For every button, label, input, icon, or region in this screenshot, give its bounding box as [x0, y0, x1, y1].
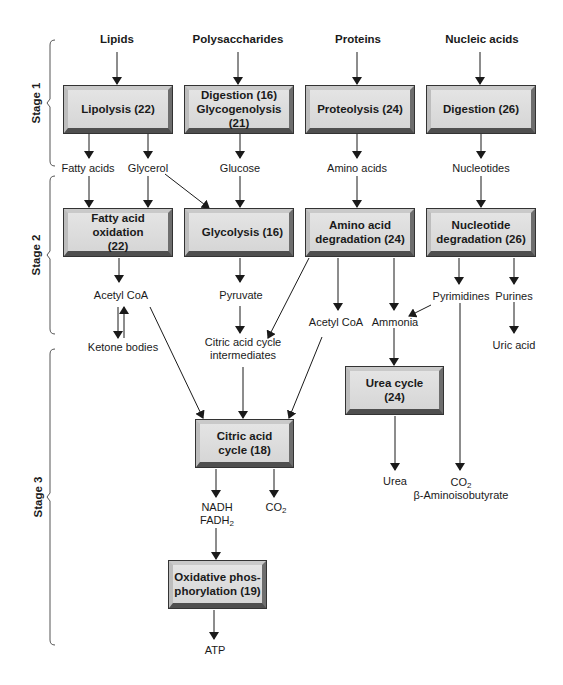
process-nucleotide-degradation: Nucleotide degradation (26) — [427, 209, 535, 256]
process-urea-cycle: Urea cycle (24) — [346, 367, 443, 414]
co2-cac-text: CO — [266, 501, 283, 513]
process-amino-acid-degradation: Amino acid degradation (24) — [306, 209, 414, 256]
product-fadh2: FADH2 — [200, 514, 234, 527]
process-proteolysis-label: Proteolysis (24) — [317, 102, 403, 116]
intermediate-acetyl-coa-right: Acetyl CoA — [309, 316, 363, 329]
process-amino-acid-degradation-line1: Amino acid — [329, 218, 391, 232]
product-nadh: NADH — [200, 501, 234, 514]
process-urea-cycle-line1: Urea cycle — [366, 376, 424, 390]
product-nadh-fadh2: NADH FADH2 — [200, 501, 234, 527]
source-polysaccharides: Polysaccharides — [193, 33, 284, 45]
stage-2-label: Stage 2 — [30, 235, 42, 276]
fadh-text: FADH — [200, 514, 229, 526]
intermediate-glucose: Glucose — [220, 162, 260, 175]
intermediate-amino-acids: Amino acids — [327, 162, 387, 175]
process-glycogenolysis-label: Glycogenolysis (21) — [189, 102, 289, 130]
intermediate-pyrimidines: Pyrimidines — [433, 290, 490, 303]
process-fatty-acid-oxidation-line1: Fatty acid oxidation — [68, 211, 168, 239]
process-oxidative-phos-line1: Oxidative phos- — [174, 570, 260, 584]
process-amino-acid-degradation-line2: degradation (24) — [315, 232, 404, 246]
process-nucleotide-degradation-line1: Nucleotide — [452, 218, 511, 232]
process-citric-acid-cycle: Citric acid cycle (18) — [196, 420, 293, 467]
product-beta-aminoisobutyrate: β-Aminoisobutyrate — [414, 489, 509, 502]
source-nucleic-acids: Nucleic acids — [445, 33, 519, 45]
process-oxidative-phos-line2: phorylation (19) — [174, 584, 260, 598]
source-lipids: Lipids — [100, 33, 134, 45]
source-proteins: Proteins — [335, 33, 381, 45]
process-lipolysis: Lipolysis (22) — [64, 86, 172, 133]
process-glycolysis: Glycolysis (16) — [185, 209, 293, 256]
stage-1-label: Stage 1 — [30, 83, 42, 124]
intermediate-uric-acid: Uric acid — [493, 339, 536, 352]
product-atp: ATP — [205, 644, 226, 657]
process-lipolysis-label: Lipolysis (22) — [81, 102, 155, 116]
process-citric-acid-cycle-line1: Citric acid — [217, 429, 273, 443]
intermediate-nucleotides: Nucleotides — [452, 162, 509, 175]
intermediate-glycerol: Glycerol — [128, 162, 168, 175]
product-co2-cac: CO2 — [266, 501, 287, 514]
process-urea-cycle-line2: (24) — [384, 390, 404, 404]
product-urea: Urea — [383, 475, 407, 488]
process-digestion-26-label: Digestion (26) — [443, 102, 519, 116]
intermediate-pyruvate: Pyruvate — [219, 289, 262, 302]
intermediate-ammonia: Ammonia — [372, 316, 418, 329]
fadh-subscript: 2 — [229, 519, 233, 528]
cac-intermediates-line2: intermediates — [205, 349, 281, 362]
stage-3-label: Stage 3 — [32, 477, 44, 518]
intermediate-acetyl-coa-left: Acetyl CoA — [94, 289, 148, 302]
process-fatty-acid-oxidation: Fatty acid oxidation (22) — [64, 209, 172, 256]
product-co2-beta-aminoisobutyrate: CO2 β-Aminoisobutyrate — [414, 476, 509, 502]
intermediate-purines: Purines — [495, 290, 532, 303]
intermediate-fatty-acids: Fatty acids — [61, 162, 114, 175]
process-digestion-glycogenolysis: Digestion (16) Glycogenolysis (21) — [185, 86, 293, 133]
process-digestion-16-label: Digestion (16) — [201, 88, 277, 102]
process-digestion-nucleic: Digestion (26) — [427, 86, 535, 133]
co2-text: CO — [451, 476, 468, 488]
process-oxidative-phosphorylation: Oxidative phos- phorylation (19) — [169, 561, 266, 608]
product-co2-pyrimidine: CO2 — [414, 476, 509, 489]
intermediate-cac-intermediates: Citric acid cycle intermediates — [205, 336, 281, 362]
co2-cac-subscript: 2 — [282, 506, 286, 515]
process-nucleotide-degradation-line2: degradation (26) — [436, 232, 525, 246]
intermediate-ketone-bodies: Ketone bodies — [88, 341, 158, 354]
cac-intermediates-line1: Citric acid cycle — [205, 336, 281, 349]
process-proteolysis: Proteolysis (24) — [306, 86, 414, 133]
process-citric-acid-cycle-line2: cycle (18) — [218, 443, 270, 457]
process-glycolysis-label: Glycolysis (16) — [202, 225, 283, 239]
process-fatty-acid-oxidation-line2: (22) — [108, 239, 128, 253]
